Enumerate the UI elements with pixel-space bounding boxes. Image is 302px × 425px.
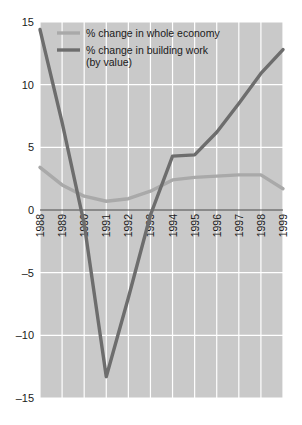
x-tick-label: 1989 xyxy=(56,214,68,238)
x-tick-label: 1995 xyxy=(189,214,201,238)
x-tick-label: 1991 xyxy=(100,214,112,238)
y-tick-label: 10 xyxy=(22,79,34,91)
x-tick-label: 1988 xyxy=(34,214,46,238)
y-tick-label: 5 xyxy=(28,141,34,153)
legend-label-secondary: (by value) xyxy=(86,56,132,68)
x-tick-label: 1996 xyxy=(211,214,223,238)
line-chart: 151050–5–10–15 1988198919901991199219931… xyxy=(0,0,302,425)
y-tick-label: –10 xyxy=(16,329,34,341)
x-tick-label: 1992 xyxy=(122,214,134,238)
y-tick-label: –15 xyxy=(16,392,34,404)
x-tick-label: 1998 xyxy=(255,214,267,238)
legend-label: % change in building work xyxy=(86,44,209,56)
y-tick-label: 15 xyxy=(22,16,34,28)
y-tick-label: –5 xyxy=(22,267,34,279)
x-tick-label: 1999 xyxy=(277,214,289,238)
y-axis-tick-labels: 151050–5–10–15 xyxy=(16,16,34,404)
x-tick-label: 1997 xyxy=(233,214,245,238)
chart-container: 151050–5–10–15 1988198919901991199219931… xyxy=(0,0,302,425)
x-tick-label: 1994 xyxy=(167,214,179,238)
legend-label: % change in whole economy xyxy=(86,27,220,39)
